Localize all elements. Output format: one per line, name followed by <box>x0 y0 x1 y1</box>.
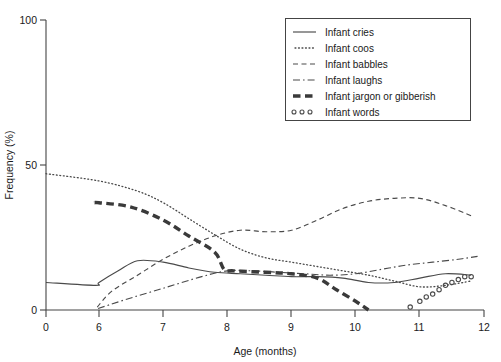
series-line-infant-coos <box>46 174 471 287</box>
chart-figure: 100 50 0 Frequency (%) 0 6 7 8 9 10 11 1… <box>0 0 501 362</box>
x-tick-label-6: 6 <box>96 321 102 333</box>
series-infant-jargon-or-gibberish <box>95 202 369 310</box>
x-tick-label-7: 7 <box>160 321 166 333</box>
y-tick-label-100: 100 <box>19 14 37 26</box>
legend-label-0: Infant cries <box>325 27 374 38</box>
x-tick-label-9: 9 <box>288 321 294 333</box>
series-line-infant-jargon-or-gibberish <box>95 202 369 310</box>
series-infant-coos <box>46 174 471 287</box>
data-point-marker <box>456 277 460 281</box>
data-point-marker <box>437 288 441 292</box>
legend-label-3: Infant laughs <box>325 75 382 86</box>
series-infant-words <box>408 274 473 309</box>
legend-label-1: Infant coos <box>325 43 374 54</box>
x-tick-label-12: 12 <box>478 321 490 333</box>
y-axis-title: Frequency (%) <box>3 131 15 200</box>
x-axis-title: Age (months) <box>233 345 296 357</box>
data-point-marker <box>408 305 412 309</box>
y-tick-label-50: 50 <box>25 159 37 171</box>
data-point-marker <box>424 295 428 299</box>
x-tick-label-8: 8 <box>224 321 230 333</box>
x-axis: 0 6 7 8 9 10 11 12 Age (months) <box>43 310 490 357</box>
x-tick-label-0: 0 <box>43 321 49 333</box>
x-tick-label-10: 10 <box>349 321 361 333</box>
data-point-marker <box>418 299 422 303</box>
legend: Infant cries Infant coos Infant babbles … <box>286 19 471 121</box>
legend-label-5: Infant words <box>325 107 379 118</box>
y-axis: 100 50 0 Frequency (%) <box>3 14 46 316</box>
series-layer <box>46 174 478 310</box>
y-tick-label-0: 0 <box>31 304 37 316</box>
data-point-marker <box>430 292 434 296</box>
legend-label-2: Infant babbles <box>325 59 388 70</box>
x-tick-label-11: 11 <box>414 321 425 333</box>
legend-label-4: Infant jargon or gibberish <box>325 91 436 102</box>
